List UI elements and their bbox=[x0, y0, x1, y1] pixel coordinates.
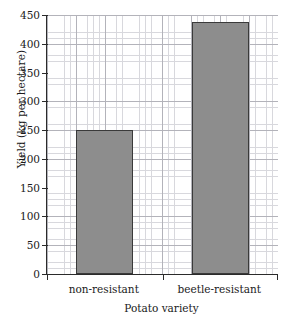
y-axis-tick-label: 0 bbox=[12, 267, 40, 281]
y-axis-tick-mark bbox=[42, 188, 48, 189]
y-axis-tick-mark bbox=[42, 130, 48, 131]
x-axis-tick-label: beetle-resistant bbox=[162, 282, 278, 297]
x-axis-title: Potato variety bbox=[46, 301, 277, 316]
y-axis-tick-labels: 050100150200250300350400450 bbox=[12, 0, 40, 320]
y-axis-tick-mark bbox=[42, 44, 48, 45]
y-axis-tick-label: 200 bbox=[12, 152, 40, 166]
plot-area bbox=[46, 15, 278, 275]
y-axis-tick-label: 450 bbox=[12, 8, 40, 22]
y-axis-tick-mark bbox=[42, 216, 48, 217]
y-axis-tick-mark bbox=[42, 15, 48, 16]
y-axis-tick-label: 300 bbox=[12, 94, 40, 108]
bar bbox=[192, 22, 249, 274]
bar bbox=[76, 130, 133, 274]
y-axis-tick-label: 100 bbox=[12, 209, 40, 223]
y-axis-tick-mark bbox=[42, 245, 48, 246]
y-axis-tick-mark bbox=[42, 73, 48, 74]
x-axis-tick-label: non-resistant bbox=[46, 282, 162, 297]
x-axis-tick-labels: non-resistantbeetle-resistant bbox=[46, 282, 277, 297]
bar-chart: Yield (kg per hectare) 05010015020025030… bbox=[0, 0, 283, 320]
y-axis-tick-mark bbox=[42, 101, 48, 102]
x-axis-tick-mark bbox=[163, 274, 164, 280]
x-axis-tick-mark bbox=[47, 274, 48, 280]
x-axis-tick-mark bbox=[277, 274, 278, 280]
plot-top-edge bbox=[47, 15, 278, 16]
y-axis-tick-label: 50 bbox=[12, 238, 40, 252]
y-axis-tick-label: 350 bbox=[12, 66, 40, 80]
y-axis-tick-label: 150 bbox=[12, 181, 40, 195]
y-axis-tick-label: 400 bbox=[12, 37, 40, 51]
y-axis-tick-mark bbox=[42, 159, 48, 160]
y-axis-tick-label: 250 bbox=[12, 123, 40, 137]
